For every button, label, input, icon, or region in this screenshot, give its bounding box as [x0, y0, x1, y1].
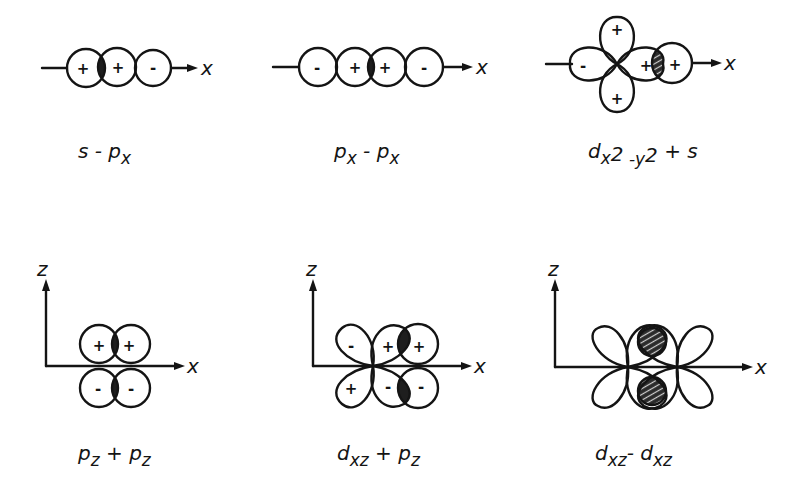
sign: -	[385, 378, 391, 396]
d-lobe-left	[570, 47, 617, 80]
sign: +	[611, 21, 624, 39]
panel-dx2y2-s: - + + + + x dx2 -y2 + s	[546, 17, 736, 169]
sign: +	[345, 380, 358, 398]
dxz1-lobe-upper-left	[593, 326, 629, 367]
panel-label: dxz- dxz	[595, 441, 673, 470]
panel-label: dxz + pz	[337, 441, 421, 470]
sign: -	[95, 380, 101, 398]
sign: +	[77, 60, 90, 78]
arrow-head-icon	[711, 59, 722, 67]
panel-label: s - px	[78, 139, 132, 168]
sign: +	[349, 59, 362, 77]
arrow-head-icon	[742, 363, 753, 371]
x-axis-label: x	[186, 354, 199, 378]
panel-dxz-pz: z x - + + + - - dxz + pz	[305, 257, 486, 470]
x-axis-label: x	[475, 55, 488, 79]
sign: +	[379, 59, 392, 77]
panel-pz-pz: z x + + - - pz + pz	[36, 257, 199, 470]
panel-label: pz + pz	[77, 441, 152, 470]
sign: +	[611, 90, 624, 108]
sign: +	[93, 337, 106, 355]
sign: -	[348, 337, 354, 355]
dxz2-lobe-lower-right	[677, 367, 713, 408]
dxz1-lobe-lower-left	[593, 367, 629, 408]
sign: +	[123, 337, 136, 355]
panel-s-px: + + - x s - px	[42, 48, 213, 168]
arrow-head-icon	[461, 362, 472, 370]
dxz2-lobe-upper-right	[677, 326, 713, 367]
x-axis-label: x	[754, 355, 767, 379]
sign: +	[112, 59, 125, 77]
panel-label: px - px	[333, 139, 400, 168]
sign: +	[640, 57, 653, 75]
arrow-head-icon	[174, 362, 185, 370]
x-axis-label: x	[723, 51, 736, 75]
sign: -	[128, 380, 134, 398]
sign: +	[669, 56, 682, 74]
x-axis-label: x	[200, 56, 213, 80]
z-axis-label: z	[547, 257, 559, 281]
sign: +	[382, 338, 395, 356]
sign: -	[314, 59, 320, 77]
arrow-head-icon	[187, 64, 198, 72]
sign: +	[413, 338, 426, 356]
panel-label: dx2 -y2 + s	[588, 139, 698, 169]
x-axis-label: x	[473, 354, 486, 378]
overlap-region-lower	[638, 377, 666, 405]
orbital-overlap-figure: + + - x s - px - + + - x px - px	[0, 0, 803, 482]
sign: -	[421, 59, 427, 77]
dxz-lobe-upper-left	[336, 325, 373, 366]
arrow-head-icon	[462, 63, 473, 71]
sign: -	[580, 57, 586, 75]
z-axis-label: z	[36, 257, 48, 281]
sign: -	[418, 378, 424, 396]
z-axis-label: z	[305, 257, 317, 281]
sign: -	[150, 59, 156, 77]
panel-px-px: - + + - x px - px	[273, 48, 488, 168]
panel-dxz-dxz: z x dxz- dxz	[547, 257, 767, 470]
overlap-region-upper	[638, 328, 666, 356]
